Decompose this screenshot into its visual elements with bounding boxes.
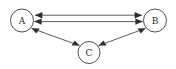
edge-a-b-upper-arrowhead-at-b	[135, 12, 142, 18]
edge-a-b-upper	[35, 12, 142, 18]
node-a[interactable]: A	[11, 9, 34, 32]
edge-a-b-lower-arrowhead-at-b	[135, 18, 142, 24]
edge-b-c-line	[99, 28, 146, 45]
edge-a-b-upper-arrowhead-at-a	[35, 12, 42, 18]
node-c[interactable]: C	[78, 42, 100, 64]
node-b[interactable]: B	[144, 9, 167, 32]
edge-a-b-lower	[34, 18, 143, 24]
edge-a-b-lower-arrowhead-at-a	[34, 18, 41, 24]
edge-b-c	[99, 28, 146, 45]
edge-a-c-line	[32, 28, 80, 45]
node-b-label: B	[152, 16, 159, 26]
graph-diagram: A B C	[0, 0, 176, 69]
graph-canvas: A B C	[0, 0, 176, 69]
node-c-label: C	[86, 48, 93, 58]
edge-a-c	[32, 28, 80, 45]
node-a-label: A	[18, 16, 26, 26]
